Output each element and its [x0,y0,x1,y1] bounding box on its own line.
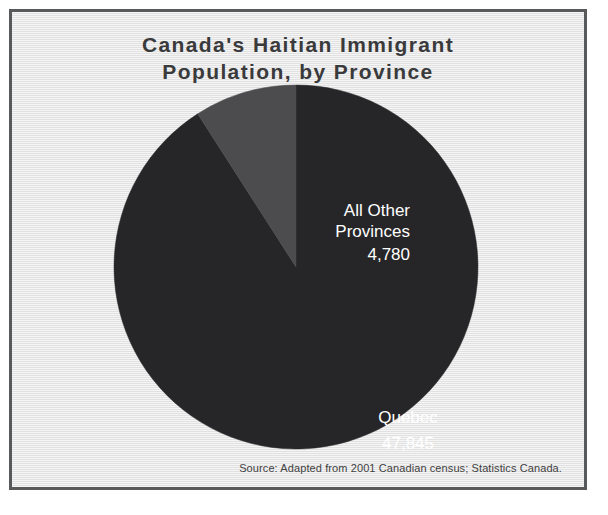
slice-value-quebec: 47,845 [308,433,508,454]
figure-root: Canada's Haitian Immigrant Population, b… [0,0,608,515]
slice-value-other-provinces: 4,780 [306,244,410,265]
chart-title: Canada's Haitian Immigrant Population, b… [12,31,584,85]
pie-svg [110,81,482,453]
source-note: Source: Adapted from 2001 Canadian censu… [12,462,562,474]
pie-chart: All Other Provinces 4,780 Quebec 47,845 [110,81,482,453]
slice-label-other-provinces: All Other Provinces [306,200,410,242]
slice-label-quebec: Quebec [308,407,508,428]
chart-frame: Canada's Haitian Immigrant Population, b… [9,9,587,490]
